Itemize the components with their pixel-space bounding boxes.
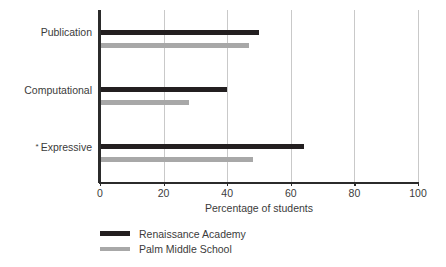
gridline: [164, 10, 165, 182]
bar: [100, 144, 304, 149]
category-label-text: Publication: [41, 26, 92, 38]
y-axis-category-label: Computational: [24, 84, 92, 96]
legend-swatch-icon: [100, 231, 130, 236]
bar: [100, 87, 227, 92]
gridline: [291, 10, 292, 182]
legend-item-label: Palm Middle School: [139, 243, 232, 255]
category-label-text: Computational: [24, 84, 92, 96]
gridline: [227, 10, 228, 182]
legend: Renaissance Academy Palm Middle School: [100, 226, 246, 256]
x-axis-tick-label: 0: [97, 187, 103, 199]
x-axis-tick-label: 40: [221, 187, 233, 199]
x-axis-tick: [418, 182, 419, 186]
category-label-text: Expressive: [41, 141, 92, 153]
x-axis-line: [99, 182, 419, 184]
gridline: [418, 10, 419, 182]
x-axis-tick: [354, 182, 355, 186]
y-axis-line: [98, 10, 101, 183]
x-axis-tick-label: 100: [409, 187, 427, 199]
bar: [100, 157, 253, 162]
legend-item-renaissance-academy: Renaissance Academy: [100, 226, 246, 241]
x-axis-title: Percentage of students: [100, 202, 418, 214]
x-axis-tick: [291, 182, 292, 186]
x-axis-tick: [164, 182, 165, 186]
x-axis-tick: [227, 182, 228, 186]
bar: [100, 30, 259, 35]
bar: [100, 100, 189, 105]
bar-chart: 020406080100 PublicationComputational*Ex…: [0, 0, 446, 267]
x-axis-tick: [100, 182, 101, 186]
legend-item-palm-middle-school: Palm Middle School: [100, 241, 246, 256]
category-marker-icon: *: [36, 142, 39, 151]
x-axis-tick-label: 60: [285, 187, 297, 199]
y-axis-category-label: Publication: [41, 26, 92, 38]
gridline: [354, 10, 355, 182]
y-axis-category-label: *Expressive: [36, 141, 92, 153]
x-axis-tick-label: 80: [349, 187, 361, 199]
legend-swatch-icon: [100, 247, 130, 251]
legend-item-label: Renaissance Academy: [139, 228, 246, 240]
plot-area: [100, 10, 418, 182]
x-axis-tick-label: 20: [158, 187, 170, 199]
bar: [100, 43, 249, 48]
